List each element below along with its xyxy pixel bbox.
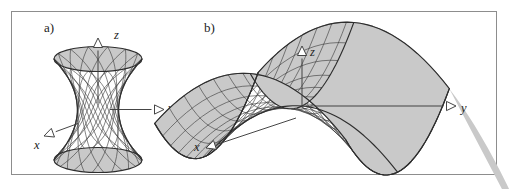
panel-b-hyperbolic-paraboloid: b) z y x xyxy=(184,12,498,176)
panel-b-axis-label-z: z xyxy=(310,45,315,60)
panel-a-axis-x-arrowhead xyxy=(44,128,55,137)
panel-a-axis-y-arrowhead xyxy=(155,105,165,114)
panel-b-graphic xyxy=(184,12,498,176)
panel-a-hyperboloid: a) z y x xyxy=(12,12,184,176)
panel-a-axis-z-arrowhead xyxy=(93,38,102,48)
panel-a-axis-label-x: x xyxy=(34,138,40,153)
panel-b-axis-y-arrowhead xyxy=(447,101,457,110)
panel-b-axis-label-x: x xyxy=(194,140,200,155)
hyperboloid-silhouette-left xyxy=(54,59,77,160)
panel-b-axis-label-y: y xyxy=(461,101,467,116)
panel-a-axis-label-z: z xyxy=(114,28,119,43)
figure-root: a) z y x b) z y x xyxy=(0,0,510,189)
figure-frame: a) z y x b) z y x xyxy=(11,11,497,175)
